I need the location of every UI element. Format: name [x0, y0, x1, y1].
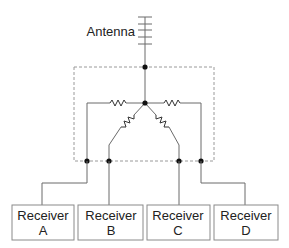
svg-text:Receiver: Receiver — [220, 208, 272, 223]
receiver-d: Receiver D — [214, 205, 278, 240]
svg-text:Receiver: Receiver — [85, 208, 137, 223]
wire-receiver-d — [201, 161, 245, 205]
resistor-diag-right — [145, 103, 179, 161]
splitter-diagram: Antenna Receiver — [0, 0, 289, 248]
svg-text:B: B — [107, 223, 116, 238]
svg-text:A: A — [39, 223, 48, 238]
junction-dot — [142, 64, 147, 69]
svg-text:Receiver: Receiver — [152, 208, 204, 223]
junction-dot — [142, 100, 147, 105]
receiver-a: Receiver A — [12, 205, 74, 240]
receiver-b: Receiver B — [78, 205, 143, 240]
wire-receiver-a — [42, 161, 87, 205]
resistor-right — [145, 100, 201, 161]
svg-text:D: D — [241, 223, 250, 238]
receiver-c: Receiver C — [147, 205, 210, 240]
svg-text:C: C — [173, 223, 182, 238]
antenna-icon — [138, 17, 152, 67]
svg-text:Receiver: Receiver — [17, 208, 69, 223]
resistor-left — [87, 100, 145, 161]
splitter-enclosure — [74, 67, 214, 161]
resistor-diag-left — [109, 103, 145, 161]
antenna-label: Antenna — [87, 24, 136, 39]
